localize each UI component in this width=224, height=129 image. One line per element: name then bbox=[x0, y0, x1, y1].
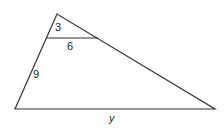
label-inner-segment: 6 bbox=[67, 40, 73, 52]
triangle-diagram: 3 6 9 y bbox=[0, 0, 224, 129]
label-base: y bbox=[108, 112, 116, 124]
label-lower-side: 9 bbox=[33, 68, 39, 80]
outer-triangle bbox=[15, 14, 215, 109]
label-upper-side: 3 bbox=[55, 21, 61, 33]
